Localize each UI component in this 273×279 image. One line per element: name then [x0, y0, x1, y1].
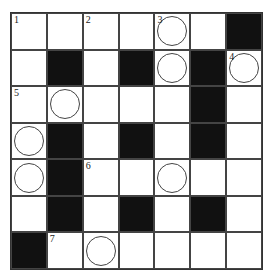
grid-cell[interactable]	[119, 159, 155, 196]
crossword-grid: 1234567	[10, 12, 263, 270]
grid-cell[interactable]	[190, 13, 226, 50]
circle-marker-icon	[14, 163, 44, 193]
grid-cell[interactable]	[154, 196, 190, 233]
grid-cell[interactable]	[226, 232, 262, 269]
clue-number: 7	[50, 233, 55, 244]
black-cell	[119, 50, 155, 87]
grid-cell[interactable]	[154, 232, 190, 269]
black-cell	[47, 196, 83, 233]
clue-number: 3	[157, 14, 162, 25]
grid-cell[interactable]	[47, 86, 83, 123]
grid-cell[interactable]	[11, 196, 47, 233]
grid-cell[interactable]	[154, 159, 190, 196]
grid-cell[interactable]: 6	[83, 159, 119, 196]
black-cell	[190, 86, 226, 123]
grid-cell[interactable]	[83, 86, 119, 123]
grid-cell[interactable]: 1	[11, 13, 47, 50]
clue-number: 4	[229, 51, 234, 62]
black-cell	[47, 50, 83, 87]
grid-cell[interactable]	[119, 13, 155, 50]
black-cell	[190, 123, 226, 160]
black-cell	[190, 196, 226, 233]
grid-cell[interactable]	[83, 123, 119, 160]
grid-cell[interactable]: 2	[83, 13, 119, 50]
grid-cell[interactable]	[226, 196, 262, 233]
grid-cell[interactable]	[190, 232, 226, 269]
grid-cell[interactable]	[11, 123, 47, 160]
grid-cell[interactable]	[119, 86, 155, 123]
grid-cell[interactable]	[154, 50, 190, 87]
black-cell	[47, 159, 83, 196]
grid-cell[interactable]	[83, 232, 119, 269]
grid-cell[interactable]: 7	[47, 232, 83, 269]
grid-cell[interactable]: 4	[226, 50, 262, 87]
grid-cell[interactable]	[154, 86, 190, 123]
grid-cell[interactable]	[83, 50, 119, 87]
grid-cell[interactable]	[226, 159, 262, 196]
grid-cell[interactable]	[154, 123, 190, 160]
grid-cell[interactable]: 3	[154, 13, 190, 50]
grid-cell[interactable]: 5	[11, 86, 47, 123]
grid-cell[interactable]	[226, 86, 262, 123]
clue-number: 6	[86, 160, 91, 171]
grid-cell[interactable]	[119, 232, 155, 269]
circle-marker-icon	[86, 236, 116, 266]
grid-cell[interactable]	[226, 123, 262, 160]
circle-marker-icon	[50, 89, 80, 119]
circle-marker-icon	[14, 126, 44, 156]
circle-marker-icon	[157, 163, 187, 193]
black-cell	[119, 123, 155, 160]
grid-cell[interactable]	[47, 13, 83, 50]
black-cell	[226, 13, 262, 50]
grid-cell[interactable]	[190, 159, 226, 196]
black-cell	[47, 123, 83, 160]
black-cell	[119, 196, 155, 233]
grid-cell[interactable]	[83, 196, 119, 233]
black-cell	[11, 232, 47, 269]
black-cell	[190, 50, 226, 87]
clue-number: 1	[14, 14, 19, 25]
grid-cell[interactable]	[11, 50, 47, 87]
clue-number: 5	[14, 87, 19, 98]
circle-marker-icon	[157, 53, 187, 83]
grid-cell[interactable]	[11, 159, 47, 196]
clue-number: 2	[86, 14, 91, 25]
